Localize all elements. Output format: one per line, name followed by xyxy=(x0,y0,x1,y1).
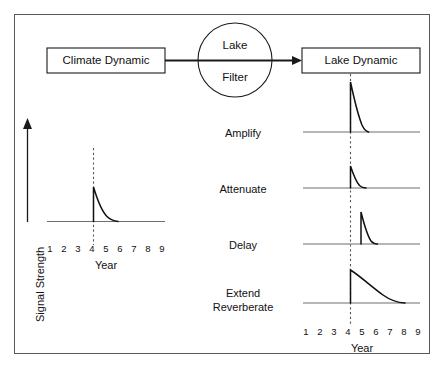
x-tick-label: 1 xyxy=(299,326,313,337)
x-tick-label: 6 xyxy=(113,243,127,254)
left-chart-signal-curve xyxy=(94,187,119,222)
x-tick-label: 6 xyxy=(369,326,383,337)
x-tick-label: 7 xyxy=(383,326,397,337)
left-chart-x-tick-labels: 123456789 xyxy=(43,243,169,254)
x-tick-label: 9 xyxy=(411,326,425,337)
right-chart-x-tick-labels: 123456789 xyxy=(299,326,425,337)
y-axis-label-signal-strength: Signal Strength xyxy=(34,247,46,322)
delay-chart-signal-curve xyxy=(361,212,378,244)
x-tick-label: 3 xyxy=(71,243,85,254)
x-tick-label: 4 xyxy=(85,243,99,254)
x-tick-label: 7 xyxy=(127,243,141,254)
diagram-canvas: Climate Dynamic Lake Filter Lake Dynamic… xyxy=(0,0,444,371)
lake-dynamic-box-label: Lake Dynamic xyxy=(325,54,398,66)
process-label-attenuate: Attenuate xyxy=(219,183,266,195)
process-label-extend: Extend xyxy=(226,287,260,299)
attenuate-chart-signal-curve xyxy=(351,166,367,188)
amplify-chart-signal-curve xyxy=(351,82,369,132)
flow-arrow-head xyxy=(292,56,302,65)
x-tick-label: 5 xyxy=(99,243,113,254)
x-tick-label: 8 xyxy=(397,326,411,337)
process-label-delay: Delay xyxy=(229,239,257,251)
lake-filter-label-line2: Filter xyxy=(222,71,248,83)
x-tick-label: 9 xyxy=(155,243,169,254)
x-tick-label: 8 xyxy=(141,243,155,254)
left-chart-x-axis-label: Year xyxy=(95,259,117,271)
extend-reverberate-chart-signal-curve xyxy=(351,270,406,303)
lake-filter-label-line1: Lake xyxy=(223,39,248,51)
x-tick-label: 5 xyxy=(355,326,369,337)
x-tick-label: 2 xyxy=(313,326,327,337)
x-tick-label: 4 xyxy=(341,326,355,337)
climate-dynamic-box-label: Climate Dynamic xyxy=(63,54,150,66)
process-label-reverberate: Reverberate xyxy=(213,301,274,313)
process-label-amplify: Amplify xyxy=(225,127,261,139)
x-tick-label: 2 xyxy=(57,243,71,254)
x-tick-label: 1 xyxy=(43,243,57,254)
x-tick-label: 3 xyxy=(327,326,341,337)
right-chart-x-axis-label: Year xyxy=(351,342,373,354)
signal-strength-arrow-head xyxy=(23,118,32,129)
